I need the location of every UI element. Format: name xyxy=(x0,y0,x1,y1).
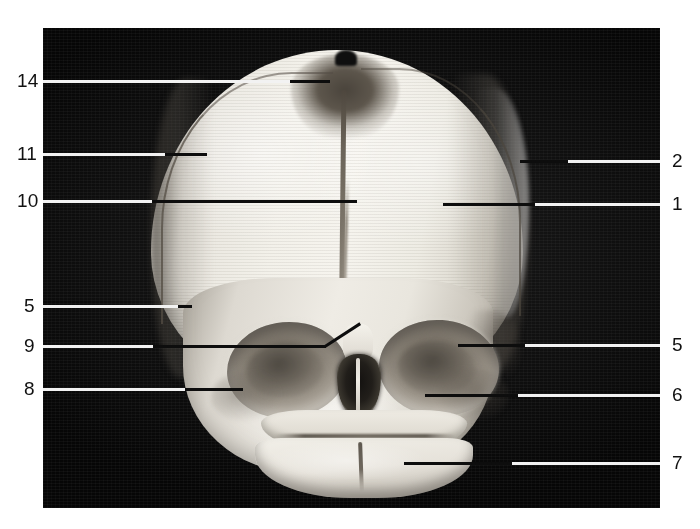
leader-line-5-right-light xyxy=(525,344,660,347)
leader-line-7-dark xyxy=(404,462,512,465)
leader-line-14-dark xyxy=(290,80,330,83)
label-11: 11 xyxy=(17,144,37,163)
leader-line-9-light xyxy=(43,345,153,348)
label-2: 2 xyxy=(672,151,683,170)
label-7: 7 xyxy=(672,453,683,472)
leader-line-1-dark xyxy=(443,203,535,206)
leader-line-14-light xyxy=(43,80,290,83)
leader-line-5-left-light xyxy=(43,305,178,308)
leader-line-7-light xyxy=(512,462,660,465)
leader-line-1-light xyxy=(535,203,660,206)
label-6: 6 xyxy=(672,385,683,404)
label-5-left: 5 xyxy=(24,296,35,315)
nasal-septum xyxy=(356,358,360,414)
leader-line-10-dark xyxy=(152,200,357,203)
label-8: 8 xyxy=(24,379,35,398)
leader-line-8-dark xyxy=(185,388,243,391)
leader-line-2-dark xyxy=(520,160,568,163)
leader-line-9-dark xyxy=(153,345,326,348)
leader-line-8-light xyxy=(43,388,185,391)
leader-line-5-left-dark xyxy=(178,305,192,308)
leader-line-11-light xyxy=(43,153,165,156)
leader-line-11-dark xyxy=(165,153,207,156)
leader-line-6-dark xyxy=(425,394,518,397)
mandible xyxy=(255,438,473,498)
label-14: 14 xyxy=(17,71,39,90)
figure-root: 14 11 10 5 9 8 2 1 5 6 7 xyxy=(0,0,700,529)
label-9: 9 xyxy=(24,336,35,355)
label-1: 1 xyxy=(672,194,683,213)
leader-line-5-right-dark xyxy=(458,344,525,347)
leader-line-2-light xyxy=(568,160,660,163)
label-10: 10 xyxy=(17,191,39,210)
leader-line-6-light xyxy=(518,394,660,397)
label-5-right: 5 xyxy=(672,335,683,354)
leader-line-10-light xyxy=(43,200,152,203)
fontanelle-notch xyxy=(335,50,357,66)
photo-plate xyxy=(43,28,660,508)
fetal-skull-specimen xyxy=(43,28,660,508)
